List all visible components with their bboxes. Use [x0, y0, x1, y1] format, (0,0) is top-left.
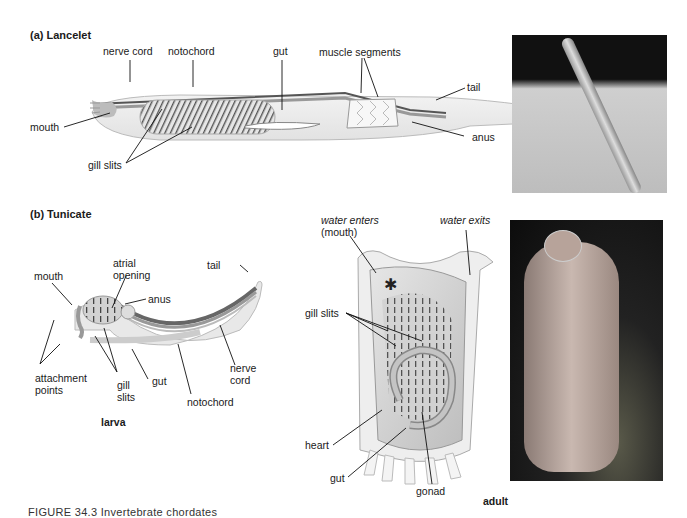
- tunicate-body-in-photo: [524, 242, 619, 472]
- label-anus: anus: [472, 131, 495, 143]
- larva-label-gill-1: gill: [117, 379, 130, 391]
- larva-label-gill-2: slits: [117, 391, 135, 403]
- label-gill-slits: gill slits: [88, 159, 122, 171]
- adult-label-mouth: (mouth): [321, 226, 357, 238]
- panel-a-title: (a) Lancelet: [30, 29, 91, 41]
- tunicate-adult-diagram: ✱: [358, 251, 493, 484]
- adult-label-gut: gut: [330, 472, 345, 484]
- label-nerve-cord: nerve cord: [103, 45, 153, 57]
- larva-label-notochord: notochord: [187, 396, 234, 408]
- label-tail: tail: [467, 81, 480, 93]
- figure-caption: FIGURE 34.3 Invertebrate chordates: [28, 506, 217, 518]
- label-mouth: mouth: [30, 121, 59, 133]
- lancelet-photo: [512, 35, 667, 193]
- larva-label-gut: gut: [152, 375, 167, 387]
- label-notochord: notochord: [168, 45, 215, 57]
- adult-label-gill-slits: gill slits: [305, 307, 339, 319]
- panel-b-title: (b) Tunicate: [30, 208, 92, 220]
- larva-label-nerve-1: nerve: [230, 362, 256, 374]
- lancelet-body-in-photo: [560, 36, 643, 193]
- larva-caption: larva: [101, 416, 126, 428]
- adult-label-heart: heart: [305, 439, 329, 451]
- larva-label-anus: anus: [148, 293, 171, 305]
- label-muscle-segments: muscle segments: [319, 46, 401, 58]
- larva-label-attachment-1: attachment: [35, 372, 87, 384]
- larva-label-mouth: mouth: [34, 270, 63, 282]
- adult-label-water-enters: water enters: [321, 214, 379, 226]
- tunicate-siphon-in-photo: [544, 230, 582, 262]
- larva-label-attachment-2: points: [35, 384, 63, 396]
- larva-label-nerve-2: cord: [230, 374, 250, 386]
- larva-label-atrial-2: opening: [113, 269, 150, 281]
- adult-label-gonad: gonad: [416, 485, 445, 497]
- adult-label-water-exits: water exits: [440, 214, 490, 226]
- adult-caption: adult: [483, 495, 508, 507]
- label-gut: gut: [273, 45, 288, 57]
- larva-label-tail: tail: [207, 259, 220, 271]
- tunicate-photo: [510, 220, 663, 481]
- svg-text:✱: ✱: [384, 275, 397, 294]
- larva-label-atrial-1: atrial: [113, 257, 136, 269]
- tunicate-larva-diagram: [75, 281, 262, 345]
